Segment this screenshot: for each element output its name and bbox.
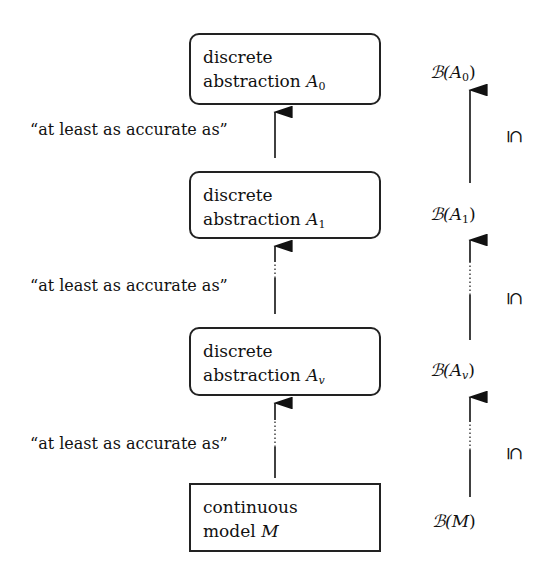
node-abstraction-a0: discrete abstraction A0 xyxy=(189,33,381,105)
node-continuous-model-m: continuous model M xyxy=(189,483,381,552)
node-subscript: v xyxy=(319,374,325,387)
node-line1: discrete xyxy=(203,339,379,363)
node-abstraction-av: discrete abstraction Av xyxy=(189,327,381,396)
node-symbol: A xyxy=(306,365,318,385)
node-symbol: A xyxy=(306,209,318,229)
relation-label-1: “at least as accurate as” xyxy=(30,120,228,139)
subseteq-symbol-2: ⊆ xyxy=(505,291,526,306)
node-line2: abstraction xyxy=(203,71,306,91)
behavior-m: ℬ(M) xyxy=(432,511,476,531)
behavior-av: ℬ(Av) xyxy=(430,360,475,380)
node-abstraction-a1: discrete abstraction A1 xyxy=(189,171,381,239)
node-line1: continuous xyxy=(203,495,379,519)
node-symbol: A xyxy=(306,71,318,91)
node-symbol: M xyxy=(261,521,278,541)
node-line1: discrete xyxy=(203,183,379,207)
node-subscript: 0 xyxy=(319,80,326,93)
relation-label-2: “at least as accurate as” xyxy=(30,276,228,295)
node-subscript: 1 xyxy=(319,218,326,231)
node-line2: model xyxy=(203,521,261,541)
subseteq-symbol-3: ⊆ xyxy=(505,446,526,461)
node-line1: discrete xyxy=(203,45,379,69)
behavior-a0: ℬ(A0) xyxy=(430,62,476,82)
node-line2: abstraction xyxy=(203,365,306,385)
node-line2: abstraction xyxy=(203,209,306,229)
relation-label-3: “at least as accurate as” xyxy=(30,434,228,453)
subseteq-symbol-1: ⊆ xyxy=(505,129,526,144)
behavior-a1: ℬ(A1) xyxy=(430,204,476,224)
